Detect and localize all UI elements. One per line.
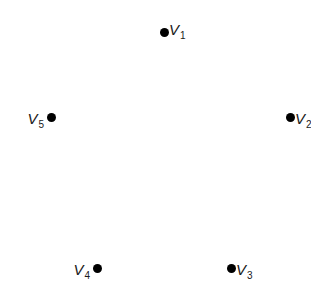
vertex-label-name: V	[169, 21, 179, 38]
vertex-label-name: V	[236, 261, 246, 278]
graph-canvas: V1 V2 V3 V4 V5	[0, 0, 311, 296]
vertex-label: V4	[73, 262, 90, 279]
vertex-dot	[93, 264, 102, 273]
vertex-label-name: V	[27, 110, 37, 127]
vertex-label: V2	[295, 111, 311, 128]
vertex-label-subscript: 3	[247, 270, 253, 281]
vertex-label-subscript: 4	[84, 270, 90, 281]
vertex-label-subscript: 2	[306, 119, 311, 130]
vertex-label: V1	[169, 22, 186, 39]
vertex-dot	[47, 113, 56, 122]
vertex-label-name: V	[73, 261, 83, 278]
vertex-dot	[286, 113, 295, 122]
vertex-label: V3	[236, 262, 253, 279]
vertex-dot	[227, 264, 236, 273]
vertex-label-subscript: 1	[180, 30, 186, 41]
vertex-label-name: V	[295, 110, 305, 127]
vertex-label-subscript: 5	[38, 119, 44, 130]
vertex-dot	[160, 28, 169, 37]
vertex-label: V5	[27, 111, 44, 128]
